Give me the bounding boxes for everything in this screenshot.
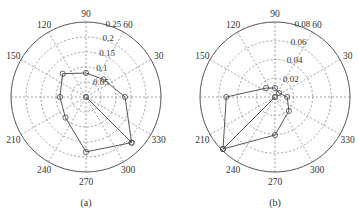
angle-tick-label: 60	[123, 20, 133, 30]
angle-tick-label: 120	[37, 20, 52, 30]
panel-caption: (b)	[269, 197, 281, 209]
angle-tick-label: 150	[195, 51, 210, 61]
radial-tick-label: 0.08	[295, 19, 311, 29]
polar-panel-b: 3060901201502102402703003300.020.040.060…	[195, 9, 355, 210]
angle-tick-label: 300	[310, 165, 325, 175]
angle-tick-label: 240	[37, 165, 52, 175]
angle-tick-label: 150	[6, 51, 21, 61]
radial-tick-label: 0.02	[283, 74, 299, 84]
radial-tick-label: 0.25	[106, 19, 122, 29]
radial-tick-label: 0.15	[99, 48, 115, 58]
polar-figure: 3060901201502102402703003300.050.10.150.…	[0, 0, 358, 213]
radial-tick-label: 0.04	[287, 55, 303, 65]
angle-tick-label: 30	[343, 51, 353, 61]
angle-tick-label: 30	[154, 51, 164, 61]
radial-tick-label: 0.1	[96, 63, 107, 73]
angle-tick-label: 330	[152, 135, 167, 145]
panel-caption: (a)	[80, 197, 91, 209]
angle-tick-label: 210	[6, 135, 21, 145]
angle-tick-label: 240	[226, 165, 241, 175]
radial-tick-label: 0.2	[102, 33, 113, 43]
angle-tick-label: 90	[81, 9, 91, 19]
angle-tick-label: 90	[270, 9, 280, 19]
polar-panel-a: 3060901201502102402703003300.050.10.150.…	[6, 9, 166, 210]
radial-tick-label: 0.06	[291, 37, 307, 47]
angle-tick-label: 270	[79, 177, 94, 187]
angle-tick-label: 120	[226, 20, 241, 30]
angle-tick-label: 270	[268, 177, 283, 187]
angle-tick-label: 300	[121, 165, 136, 175]
angle-tick-label: 60	[312, 20, 322, 30]
angle-tick-label: 210	[195, 135, 210, 145]
angle-tick-label: 330	[341, 135, 356, 145]
